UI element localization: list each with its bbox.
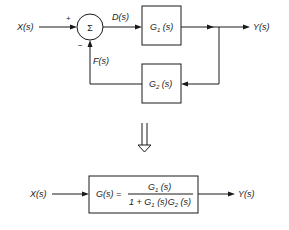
feedback-takeoff-line [184,27,219,84]
reduction-arrow-icon [138,123,151,152]
bottom-input-arrowhead-icon [82,192,89,197]
sigma-icon: Σ [87,23,93,33]
input-label-bottom: X(s) [29,189,47,199]
input-arrowhead-icon [70,25,77,30]
error-arrowhead-icon [135,25,142,30]
output-arrowhead-icon [243,25,250,30]
feedback-arrowhead-icon [181,82,188,87]
minus-sign: − [78,41,83,50]
transfer-numerator: G1 (s) [148,182,171,193]
output-label-top: Y(s) [253,22,270,32]
feedback-sum-arrowhead-icon [88,40,93,47]
input-label-top: X(s) [16,22,34,32]
mid-arrowhead-icon [207,25,214,30]
transfer-denominator: 1 + G1 (s)G2 (s) [129,197,191,208]
block-diagram: X(s) + − Σ D(s) G1 (s) Y(s) G2 (s) F(s) … [0,0,289,230]
feedback-block-label: G2 (s) [149,79,172,90]
feedback-label: F(s) [93,56,109,66]
bottom-output-arrowhead-icon [228,192,235,197]
transfer-lhs: G(s) = [96,189,121,199]
output-label-bottom: Y(s) [238,189,255,199]
forward-block-label: G1 (s) [150,22,173,33]
error-label: D(s) [112,12,129,22]
plus-sign: + [66,14,71,23]
